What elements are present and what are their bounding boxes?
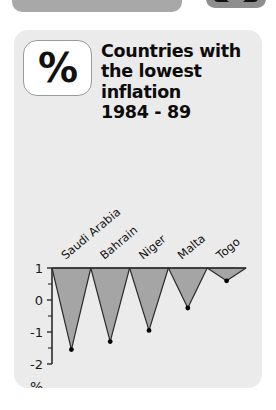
chart-data-point [147, 328, 152, 333]
chart-wedge [52, 268, 91, 350]
title-line-2: the lowest [101, 61, 254, 81]
status-badge-notch [226, 0, 246, 4]
chart-category-label: Malta [175, 231, 208, 262]
chart-plot [52, 268, 246, 352]
chart-wedge [130, 268, 169, 330]
title-line-1: Countries with [101, 41, 254, 61]
chart-category-label: Niger [136, 232, 169, 263]
percent-icon: % [23, 40, 92, 96]
y-tick-label: -1 [30, 325, 43, 340]
top-chrome-strip [0, 0, 276, 26]
chart-data-point [69, 347, 74, 352]
page-title: Countries with the lowest inflation 1984… [101, 41, 254, 123]
y-tick-label: -2 [30, 357, 43, 372]
status-badge-partial[interactable] [206, 0, 266, 8]
title-line-4: 1984 - 89 [101, 102, 254, 122]
chart-y-axis: 10-1-2 [30, 261, 52, 372]
y-axis-unit-label: % [30, 379, 43, 388]
infographic-card: % Countries with the lowest inflation 19… [14, 30, 262, 388]
y-tick-label: 1 [35, 261, 43, 276]
inflation-chart: Saudi ArabiaBahrainNigerMaltaTogo 10-1-2… [14, 160, 262, 388]
chart-wedge [168, 268, 207, 308]
chart-canvas: Saudi ArabiaBahrainNigerMaltaTogo 10-1-2… [14, 160, 262, 388]
percent-glyph: % [38, 48, 77, 88]
chart-data-point [185, 306, 190, 311]
chart-data-point [108, 339, 113, 344]
chart-wedge [91, 268, 130, 342]
y-tick-label: 0 [35, 293, 43, 308]
chart-country-labels: Saudi ArabiaBahrainNigerMaltaTogo [58, 205, 242, 263]
card-header: % Countries with the lowest inflation 19… [14, 30, 262, 123]
chart-data-point [224, 278, 229, 283]
window-title-bar-partial[interactable] [12, 0, 182, 12]
chart-category-label: Togo [213, 235, 243, 263]
title-line-3: inflation [101, 82, 254, 102]
